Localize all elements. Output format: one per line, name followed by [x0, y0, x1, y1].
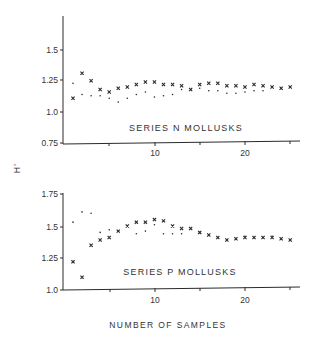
y-axis-title: H' [12, 163, 22, 174]
dot-marker [90, 212, 92, 214]
dot-marker [217, 237, 219, 239]
x-marker [225, 84, 228, 87]
x-marker [243, 85, 246, 88]
x-marker [252, 83, 255, 86]
dot-marker [127, 97, 129, 99]
top-xtick-label: 10 [150, 148, 160, 158]
x-marker [162, 83, 165, 86]
top-ytick-label: 1.0 [46, 107, 58, 117]
dot-marker [244, 91, 246, 93]
top-chart: 1.5 1.25 1.0 0.75 10 20 SERIES N MOLLUSK… [41, 16, 300, 158]
dot-marker [145, 230, 147, 232]
x-marker [171, 224, 174, 227]
dot-marker [235, 238, 237, 240]
top-xtick-label: 20 [240, 148, 250, 158]
dot-marker [181, 233, 183, 235]
x-marker [108, 236, 111, 239]
bottom-xtick-label: 20 [240, 295, 250, 305]
top-x-axis [63, 141, 300, 144]
x-marker [71, 260, 74, 263]
x-marker [135, 83, 138, 86]
bottom-ytick-label: 1.75 [41, 189, 58, 199]
dot-marker [262, 90, 264, 92]
dot-marker [244, 235, 246, 237]
x-marker [171, 83, 174, 86]
dot-marker [271, 235, 273, 237]
dot-marker [289, 239, 291, 241]
dot-marker [217, 90, 219, 92]
dot-marker [154, 224, 156, 226]
x-marker [144, 80, 147, 83]
dot-marker [154, 96, 156, 98]
dot-marker [90, 95, 92, 97]
dot-marker [127, 225, 129, 227]
dot-marker [208, 90, 210, 92]
dot-marker [136, 94, 138, 96]
dot-marker [235, 92, 237, 94]
dot-marker [190, 228, 192, 230]
dot-marker [199, 232, 201, 234]
top-series-label: SERIES N MOLLUSKS [129, 123, 243, 133]
dot-marker [99, 232, 101, 234]
x-marker [80, 276, 83, 279]
bottom-series-label: SERIES P MOLLUSKS [123, 267, 236, 277]
bottom-ytick-label: 1.5 [46, 222, 58, 232]
dot-marker [145, 91, 147, 93]
x-marker [90, 79, 93, 82]
dot-marker [181, 89, 183, 91]
x-marker [108, 90, 111, 93]
dot-marker [163, 233, 165, 235]
dot-marker [81, 211, 83, 213]
dot-marker [262, 237, 264, 239]
x-marker [180, 227, 183, 230]
bottom-x-axis [63, 287, 300, 290]
dot-marker [172, 94, 174, 96]
x-marker [99, 238, 102, 241]
dot-marker [117, 230, 119, 232]
dot-marker [280, 87, 282, 89]
x-marker [234, 84, 237, 87]
dot-marker [99, 95, 101, 97]
x-axis-title: NUMBER OF SAMPLES [109, 320, 226, 330]
dot-marker [172, 233, 174, 235]
dot-marker [108, 97, 110, 99]
top-data-points [71, 72, 291, 103]
x-marker [71, 97, 74, 100]
x-marker [180, 84, 183, 87]
x-marker [198, 83, 201, 86]
dot-marker [117, 101, 119, 103]
dot-marker [208, 234, 210, 236]
x-marker [135, 221, 138, 224]
dot-marker [253, 237, 255, 239]
x-marker [117, 87, 120, 90]
x-marker [144, 221, 147, 224]
dot-marker [199, 87, 201, 89]
dot-marker [163, 95, 165, 97]
dot-marker [136, 233, 138, 235]
dot-marker [253, 90, 255, 92]
bottom-ytick-label: 1.25 [41, 253, 58, 263]
x-marker [99, 88, 102, 91]
dot-marker [72, 221, 74, 223]
dot-marker [226, 92, 228, 94]
dot-marker [289, 86, 291, 88]
x-marker [90, 244, 93, 247]
dot-marker [226, 239, 228, 241]
dot-marker [280, 238, 282, 240]
bottom-chart: 1.75 1.5 1.25 1.0 10 20 SERIES P MOLLUSK… [41, 189, 300, 330]
bottom-ytick-label: 1.0 [46, 285, 58, 295]
top-ytick-label: 0.75 [41, 138, 58, 148]
dot-marker [190, 89, 192, 91]
dot-marker [108, 229, 110, 231]
top-ytick-label: 1.25 [41, 75, 58, 85]
x-marker [216, 82, 219, 85]
figure: 1.5 1.25 1.0 0.75 10 20 SERIES N MOLLUSK… [0, 0, 314, 345]
x-marker [162, 219, 165, 222]
dot-marker [271, 86, 273, 88]
x-marker [207, 82, 210, 85]
x-marker [153, 218, 156, 221]
x-marker [126, 85, 129, 88]
top-ytick-label: 1.5 [46, 45, 58, 55]
x-marker [80, 72, 83, 75]
x-marker [261, 84, 264, 87]
